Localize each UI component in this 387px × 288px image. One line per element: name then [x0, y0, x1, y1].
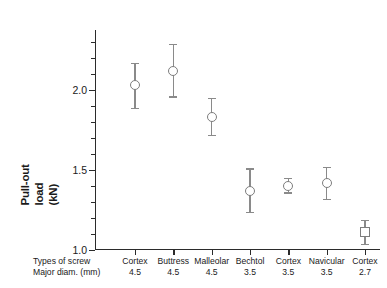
category-screw-type: Cortex [352, 256, 377, 267]
category-column: Bechtol3.5 [236, 256, 265, 278]
category-column: Cortex2.7 [352, 256, 377, 278]
error-bar-cap-upper [361, 220, 369, 221]
error-bar-cap-lower [284, 192, 292, 193]
y-axis-minor-tick [91, 106, 95, 107]
data-marker-circle [322, 178, 332, 188]
row-header-types-of-screw: Types of screw [33, 256, 100, 267]
y-axis-tick-label: 1.0 [72, 244, 87, 256]
row-header-major-diam: Major diam. (mm) [33, 267, 100, 278]
y-axis-title-line-2: load [34, 182, 46, 205]
y-axis-minor-tick [91, 234, 95, 235]
data-marker-circle [283, 181, 293, 191]
category-screw-type: Malleolar [194, 256, 229, 267]
data-marker-square [360, 227, 370, 237]
x-axis-tick [327, 250, 328, 255]
category-row-headers: Types of screw Major diam. (mm) [33, 256, 100, 278]
data-marker-circle [168, 66, 178, 76]
plot-area: 1.01.52.0 [95, 30, 380, 250]
category-screw-type: Cortex [122, 256, 147, 267]
error-bar-cap-upper [169, 44, 177, 45]
y-axis-line [95, 30, 96, 250]
category-major-diameter: 4.5 [194, 267, 229, 278]
error-bar-cap-lower [246, 212, 254, 213]
category-screw-type: Buttress [158, 256, 190, 267]
y-axis-minor-tick [91, 186, 95, 187]
category-column: Cortex4.5 [122, 256, 147, 278]
data-marker-circle [245, 186, 255, 196]
y-axis-minor-tick [91, 42, 95, 43]
x-axis-tick [288, 250, 289, 255]
data-marker-circle [130, 80, 140, 90]
y-axis-title-line-1: Pull-out [20, 164, 32, 205]
category-major-diameter: 4.5 [122, 267, 147, 278]
category-major-diameter: 2.7 [352, 267, 377, 278]
y-axis-minor-tick [91, 122, 95, 123]
category-screw-type: Cortex [276, 256, 301, 267]
y-axis-tick-label: 1.5 [72, 164, 87, 176]
x-axis-tick [173, 250, 174, 255]
x-axis-tick [212, 250, 213, 255]
error-bar-cap-lower [131, 108, 139, 109]
x-axis-category-table: Types of screw Major diam. (mm) Cortex4.… [0, 256, 387, 286]
y-axis-minor-tick [91, 202, 95, 203]
error-bar-cap-lower [323, 199, 331, 200]
error-bar-cap-lower [169, 96, 177, 97]
data-marker-circle [207, 112, 217, 122]
pull-out-load-chart: Pull-out load (kN) 1.01.52.0 Types of sc… [0, 0, 387, 288]
y-axis-tick-label: 2.0 [72, 84, 87, 96]
error-bar-cap-upper [208, 98, 216, 99]
error-bar-cap-upper [284, 178, 292, 179]
y-axis-minor-tick [91, 138, 95, 139]
category-column: Buttress4.5 [158, 256, 190, 278]
y-axis-title: Pull-out load (kN) [18, 80, 64, 205]
category-column: Cortex3.5 [276, 256, 301, 278]
x-axis-tick [365, 250, 366, 255]
y-axis-major-tick [89, 170, 95, 171]
error-bar-cap-upper [323, 167, 331, 168]
error-bar-cap-upper [246, 168, 254, 169]
y-axis-major-tick [89, 90, 95, 91]
error-bar-cap-lower [361, 244, 369, 245]
error-bar-cap-upper [131, 63, 139, 64]
category-screw-type: Navicular [309, 256, 345, 267]
category-column: Malleolar4.5 [194, 256, 229, 278]
category-major-diameter: 3.5 [276, 267, 301, 278]
y-axis-major-tick [89, 250, 95, 251]
category-column: Navicular3.5 [309, 256, 345, 278]
category-major-diameter: 3.5 [236, 267, 265, 278]
y-axis-minor-tick [91, 218, 95, 219]
category-screw-type: Bechtol [236, 256, 265, 267]
y-axis-minor-tick [91, 154, 95, 155]
error-bar-cap-lower [208, 135, 216, 136]
y-axis-minor-tick [91, 74, 95, 75]
x-axis-tick [250, 250, 251, 255]
x-axis-tick [135, 250, 136, 255]
y-axis-title-line-3: (kN) [48, 183, 60, 205]
x-axis-line [95, 249, 380, 250]
category-major-diameter: 4.5 [158, 267, 190, 278]
y-axis-minor-tick [91, 58, 95, 59]
category-major-diameter: 3.5 [309, 267, 345, 278]
